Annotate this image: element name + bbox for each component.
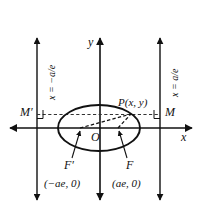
focus-left-label: F′ [64, 159, 74, 171]
point-p-label: P(x, y) [118, 97, 147, 108]
focus-right-label: F [126, 159, 133, 171]
foot-left-label: M′ [20, 106, 33, 118]
leader-arrow-focus-left [72, 131, 80, 158]
x-axis-label: x [181, 131, 186, 143]
directrix-left-label: x = −a/e [47, 65, 57, 100]
y-axis-label: y [88, 36, 93, 48]
focal-radius-left [80, 114, 131, 128]
foot-right-label: M [165, 106, 175, 118]
directrix-right-label: x = a/e [170, 69, 180, 97]
figure-canvas: y x O P(x, y) M′ M F′ F (−ae, 0) (ae, 0)… [0, 0, 200, 215]
origin-label: O [91, 131, 100, 143]
focus-right-coordinate: (ae, 0) [112, 178, 141, 189]
focus-left-coordinate: (−ae, 0) [44, 178, 80, 189]
